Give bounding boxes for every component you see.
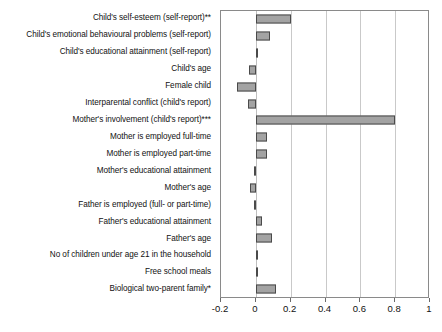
category-label: Father's educational attainment [0, 213, 216, 230]
bar [237, 82, 256, 91]
category-label: Child's educational attainment (self-rep… [0, 44, 216, 61]
bar [256, 267, 258, 276]
bar-row [221, 61, 428, 78]
bar [250, 183, 256, 192]
bar [254, 166, 256, 175]
x-tick-mark [394, 298, 395, 302]
bar [256, 251, 258, 260]
bar-row [221, 280, 428, 297]
bar [256, 217, 262, 226]
bar [256, 32, 270, 41]
x-axis: -0.200.20.40.60.81 [220, 298, 429, 332]
x-tick-label: 0.8 [388, 304, 401, 314]
category-label: Mother's involvement (child's report)*** [0, 112, 216, 129]
bar [256, 234, 272, 243]
bar [256, 150, 267, 159]
plot-area [220, 10, 429, 298]
bar [256, 49, 258, 58]
bar-row [221, 45, 428, 62]
bar [256, 15, 291, 24]
bar-row [221, 263, 428, 280]
bar [254, 200, 256, 209]
bar-row [221, 112, 428, 129]
bar [256, 133, 267, 142]
category-label: Mother's educational attainment [0, 162, 216, 179]
bar-row [221, 95, 428, 112]
category-label: Father is employed (full- or part-time) [0, 196, 216, 213]
bar-row [221, 247, 428, 264]
category-label: Mother is employed full-time [0, 129, 216, 146]
bar-row [221, 78, 428, 95]
category-label: Free school meals [0, 264, 216, 281]
x-tick-label: 0.2 [283, 304, 296, 314]
bars-layer [221, 11, 428, 297]
bar-row [221, 196, 428, 213]
bar-row [221, 230, 428, 247]
category-label: Father's age [0, 230, 216, 247]
category-label: Biological two-parent family* [0, 281, 216, 298]
bar-row [221, 28, 428, 45]
horizontal-bar-chart: Child's self-esteem (self-report)**Child… [0, 0, 442, 332]
category-label-column: Child's self-esteem (self-report)**Child… [0, 10, 216, 298]
x-tick-mark [429, 298, 430, 302]
bar-row [221, 146, 428, 163]
category-label: Child's self-esteem (self-report)** [0, 10, 216, 27]
x-tick-label: 0.4 [318, 304, 331, 314]
category-label: Interparental conflict (child's report) [0, 95, 216, 112]
x-tick-mark [220, 298, 221, 302]
bar-row [221, 129, 428, 146]
category-label: Mother is employed part-time [0, 146, 216, 163]
x-tick-label: 0 [252, 304, 257, 314]
bar-row [221, 213, 428, 230]
category-label: Mother's age [0, 179, 216, 196]
bar [248, 99, 256, 108]
bar-row [221, 162, 428, 179]
bar-row [221, 179, 428, 196]
x-tick-mark [359, 298, 360, 302]
x-tick-mark [325, 298, 326, 302]
bar [249, 65, 256, 74]
x-tick-label: -0.2 [212, 304, 228, 314]
category-label: Female child [0, 78, 216, 95]
category-label: Child's emotional behavioural problems (… [0, 27, 216, 44]
x-tick-label: 1 [426, 304, 431, 314]
bar-row [221, 11, 428, 28]
bar [256, 116, 395, 125]
category-label: No of children under age 21 in the house… [0, 247, 216, 264]
x-tick-mark [255, 298, 256, 302]
bar [256, 284, 276, 293]
x-tick-mark [290, 298, 291, 302]
category-label: Child's age [0, 61, 216, 78]
x-tick-label: 0.6 [353, 304, 366, 314]
